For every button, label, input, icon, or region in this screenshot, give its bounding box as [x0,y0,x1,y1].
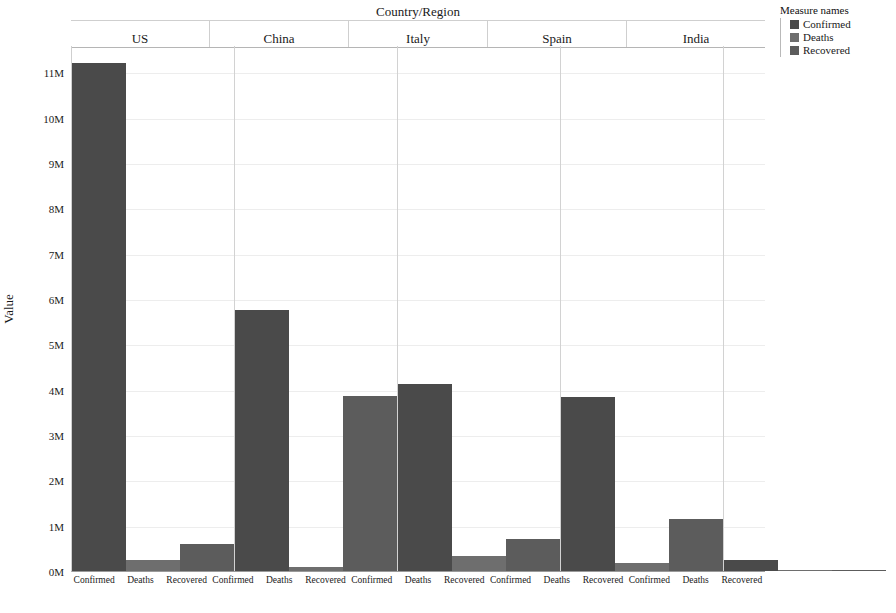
y-axis-tick-label: 10M [43,113,64,125]
x-axis-tick-label: Confirmed [487,573,533,591]
bar-slot [343,46,397,571]
legend-item-deaths[interactable]: Deaths [790,31,896,44]
x-axis-panel-india: ConfirmedDeathsRecovered [626,573,765,591]
bar-chart: Country/Region USChinaItalySpainIndia Va… [0,0,896,613]
legend-item-label: Confirmed [803,18,851,31]
panel-italy [398,46,561,571]
panel-header-label: Italy [406,31,430,46]
panel-spain [561,46,724,571]
x-axis-tick-label: Confirmed [210,573,256,591]
x-axis-panel-italy: ConfirmedDeathsRecovered [349,573,488,591]
bar-slot [724,46,778,571]
bar-slot [126,46,180,571]
x-axis-tick-label: Recovered [719,573,765,591]
bar-spain-deaths[interactable] [615,563,669,571]
panel-us [72,46,235,571]
y-axis-tick-label: 8M [49,203,64,215]
x-axis-tick-label: Confirmed [349,573,395,591]
plot-area [71,46,765,572]
bar-slot [452,46,506,571]
bar-slot [289,46,343,571]
bar-china-deaths[interactable] [289,567,343,571]
x-axis-tick-label: Recovered [164,573,210,591]
bar-italy-confirmed[interactable] [398,384,452,571]
bar-spain-confirmed[interactable] [561,397,615,571]
legend-swatch-icon [790,46,799,55]
panel-header-row: USChinaItalySpainIndia [71,20,765,48]
bar-india-confirmed[interactable] [724,560,778,571]
bar-slot [778,46,832,571]
panel-header-us: US [71,21,210,47]
bar-us-deaths[interactable] [126,560,180,571]
panel-header-china: China [210,21,349,47]
bar-us-recovered[interactable] [180,544,234,571]
panel-header-label: India [683,31,710,46]
legend-item-confirmed[interactable]: Confirmed [790,18,896,31]
bar-slot [506,46,560,571]
legend-items: ConfirmedDeathsRecovered [780,18,896,57]
y-axis-tick-label: 6M [49,294,64,306]
y-axis-tick-label: 0M [49,566,64,578]
panel-header-label: Spain [542,31,572,46]
x-axis-tick-label: Deaths [256,573,302,591]
x-axis-tick-label: Confirmed [71,573,117,591]
y-axis-tick-label: 9M [49,158,64,170]
y-axis: 0M1M2M3M4M5M6M7M8M9M10M11M [0,46,71,572]
bar-india-deaths[interactable] [778,570,832,571]
bar-china-recovered[interactable] [343,396,397,571]
bar-slot [561,46,615,571]
x-axis-tick-label: Recovered [441,573,487,591]
y-axis-tick-label: 4M [49,385,64,397]
x-axis-tick-label: Deaths [534,573,580,591]
bar-spain-recovered[interactable] [669,519,723,571]
panel-header-india: India [627,21,765,47]
legend: Measure names ConfirmedDeathsRecovered [780,4,896,57]
legend-swatch-icon [790,33,799,42]
panel-china [235,46,398,571]
x-axis-tick-label: Recovered [580,573,626,591]
x-axis: ConfirmedDeathsRecoveredConfirmedDeathsR… [71,573,765,591]
x-axis-panel-china: ConfirmedDeathsRecovered [210,573,349,591]
bar-india-recovered[interactable] [832,570,886,571]
x-axis-panel-spain: ConfirmedDeathsRecovered [487,573,626,591]
bar-slot [72,46,126,571]
column-field-title: Country/Region [71,4,765,19]
x-axis-tick-label: Recovered [302,573,348,591]
y-axis-tick-label: 5M [49,339,64,351]
bar-slot [669,46,723,571]
panel-header-label: US [132,31,149,46]
y-axis-tick-label: 7M [49,249,64,261]
x-axis-tick-label: Deaths [117,573,163,591]
legend-item-label: Recovered [803,44,850,57]
bar-slot [615,46,669,571]
panel-india [724,46,886,571]
y-axis-tick-label: 11M [44,67,64,79]
x-axis-panel-us: ConfirmedDeathsRecovered [71,573,210,591]
bar-slot [398,46,452,571]
panel-header-italy: Italy [349,21,488,47]
y-axis-tick-label: 1M [49,521,64,533]
panel-container [72,46,765,571]
x-axis-tick-label: Confirmed [626,573,672,591]
legend-title: Measure names [780,4,896,17]
bar-slot [180,46,234,571]
bar-italy-deaths[interactable] [452,556,506,571]
legend-swatch-icon [790,20,799,29]
bar-italy-recovered[interactable] [506,539,560,571]
y-axis-tick-label: 3M [49,430,64,442]
bar-china-confirmed[interactable] [235,310,289,571]
x-axis-tick-label: Deaths [395,573,441,591]
bar-us-confirmed[interactable] [72,63,126,571]
panel-header-label: China [263,31,294,46]
legend-item-label: Deaths [803,31,834,44]
legend-item-recovered[interactable]: Recovered [790,44,896,57]
x-axis-tick-label: Deaths [672,573,718,591]
y-axis-tick-label: 2M [49,475,64,487]
panel-header-spain: Spain [488,21,627,47]
bar-slot [832,46,886,571]
bar-slot [235,46,289,571]
